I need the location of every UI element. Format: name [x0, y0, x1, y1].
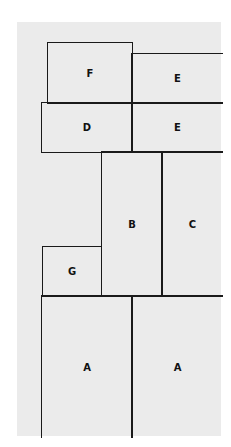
block-label: C	[189, 219, 196, 230]
block-label: G	[68, 266, 76, 277]
block-label: E	[174, 122, 181, 133]
block-g: G	[42, 246, 102, 297]
block-b: B	[101, 151, 163, 297]
block-label: A	[83, 362, 91, 373]
block-f: F	[47, 42, 133, 104]
block-a-right: A	[131, 295, 223, 438]
block-label: D	[83, 122, 91, 133]
block-label: B	[128, 219, 136, 230]
block-c: C	[161, 151, 223, 297]
block-a-left: A	[41, 295, 133, 438]
block-d: D	[41, 102, 133, 153]
block-label: A	[174, 362, 182, 373]
block-e-top: E	[131, 53, 223, 104]
block-label: F	[87, 68, 94, 79]
block-e-bottom: E	[131, 102, 223, 153]
block-label: E	[174, 73, 181, 84]
